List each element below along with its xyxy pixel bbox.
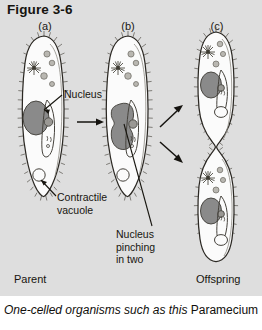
stage-label-parent: Parent bbox=[14, 273, 46, 285]
stage-label-offspring: Offspring bbox=[196, 273, 240, 285]
cell-dividing bbox=[102, 31, 153, 226]
food-vacuole bbox=[213, 187, 219, 193]
food-vacuole bbox=[41, 73, 48, 80]
food-vacuole bbox=[217, 167, 223, 173]
contractile-vacuole-lower-parent bbox=[33, 169, 45, 181]
figure-caption: One-celled organisms such as this Parame… bbox=[4, 303, 260, 317]
caption-italic-part: One-celled organisms such as this bbox=[4, 303, 191, 317]
callout-contractile-vacuole: Contractile vacuole bbox=[57, 191, 107, 216]
micronucleus-parent bbox=[44, 118, 52, 126]
figure-3-6: Figure 3-6 (a) (b) (c) bbox=[0, 0, 262, 330]
food-vacuole bbox=[128, 51, 134, 57]
food-vacuole bbox=[133, 60, 139, 66]
contractile-vacuole-upper-offspring-b bbox=[201, 171, 215, 185]
contractile-vacuole-upper-parent bbox=[27, 61, 41, 75]
contractile-vacuole-lower-dividing bbox=[117, 169, 129, 181]
food-vacuole bbox=[220, 51, 225, 56]
contractile-vacuole-upper-offspring-a bbox=[201, 45, 215, 59]
caption-species-name: Paramecium bbox=[191, 303, 258, 317]
arrow-b-to-c-lower bbox=[160, 142, 183, 163]
food-vacuole bbox=[50, 82, 55, 87]
arrow-b-to-c-upper bbox=[160, 105, 183, 127]
food-vacuole bbox=[213, 61, 219, 67]
callout-nucleus: Nucleus bbox=[64, 88, 102, 101]
contractile-vacuole-lower-offspring-b bbox=[215, 235, 228, 246]
contractile-vacuole-upper-dividing bbox=[111, 61, 125, 75]
food-vacuole bbox=[125, 73, 132, 80]
contractile-vacuole-lower-offspring-a bbox=[215, 107, 228, 118]
cell-offspring-pair bbox=[194, 27, 238, 262]
food-vacuole bbox=[49, 60, 55, 66]
cell-parent bbox=[18, 31, 69, 201]
food-vacuole bbox=[44, 51, 50, 57]
micronucleus-dividing bbox=[129, 120, 137, 128]
food-vacuole bbox=[134, 82, 139, 87]
arrow-a-to-b bbox=[77, 118, 104, 125]
food-vacuole bbox=[220, 177, 225, 182]
food-vacuole bbox=[217, 41, 223, 47]
callout-nucleus-pinching: Nucleus pinching in two bbox=[116, 228, 155, 266]
